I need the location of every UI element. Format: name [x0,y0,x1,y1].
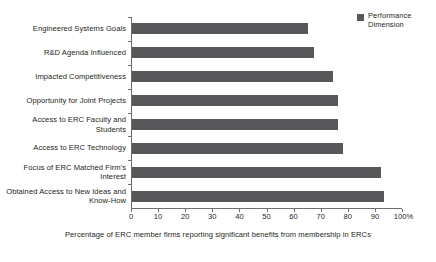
x-axis-tick-label: 90 [371,212,379,222]
x-axis-tick-label: 50 [262,212,270,222]
bar-chart: Performance Dimension Engineered Systems… [0,0,436,262]
bar [132,95,338,106]
category-label: Access to ERC Technology [0,143,126,153]
x-axis-tick-label: 60 [289,212,297,222]
y-axis-tick [128,136,131,137]
bar [132,119,338,130]
x-axis-tick-label: 80 [344,212,352,222]
bar [132,23,308,34]
x-axis-tick-label: 100% [394,212,413,222]
category-label: Engineered Systems Goals [0,24,126,34]
x-axis-tick-label: 70 [316,212,324,222]
x-axis-tick-label: 30 [208,212,216,222]
bar [132,143,343,154]
y-axis-tick [128,160,131,161]
bar [132,71,333,82]
x-axis-tick-label: 40 [235,212,243,222]
x-axis-tick-labels: 0102030405060708090100% [131,212,421,224]
category-label: R&D Agenda Influenced [0,48,126,58]
bar [132,47,314,58]
x-axis-tick-label: 10 [154,212,162,222]
x-axis-title: Percentage of ERC member firms reporting… [0,230,436,240]
category-label: Obtained Access to New Ideas and Know-Ho… [0,187,126,206]
category-axis-labels: Engineered Systems GoalsR&D Agenda Influ… [0,17,126,208]
y-axis-tick [128,113,131,114]
category-label: Access to ERC Faculty and Students [0,115,126,134]
category-label: Focus of ERC Matched Firm's Interest [0,163,126,182]
bar [132,167,381,178]
x-axis-tick-label: 0 [129,212,133,222]
bar [132,191,384,202]
category-label: Impacted Competitiveness [0,72,126,82]
plot-area [131,17,402,208]
y-axis-tick [128,65,131,66]
y-axis-tick [128,17,131,18]
y-axis-tick [128,89,131,90]
y-axis-tick [128,41,131,42]
category-label: Opportunity for Joint Projects [0,96,126,106]
x-axis-tick-label: 20 [181,212,189,222]
y-axis-line [131,17,132,208]
y-axis-tick [128,184,131,185]
